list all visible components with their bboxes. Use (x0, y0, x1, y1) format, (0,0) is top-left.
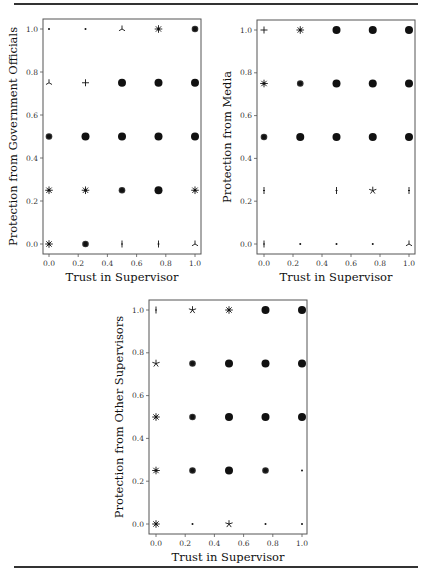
x-axis-label: Trust in Supervisor (172, 550, 285, 564)
circle-marker (225, 413, 233, 421)
asterisk-marker (45, 186, 53, 194)
circle-marker (262, 306, 270, 314)
y-axis-label: Protection from Media (220, 71, 234, 203)
y-tick-label: 0.4 (240, 154, 252, 163)
x-tick-label: 0.8 (160, 259, 172, 268)
plus-marker (261, 27, 268, 34)
asterisk-marker (260, 80, 268, 88)
asterisk-marker (152, 413, 160, 421)
y-tick-label: 0.8 (26, 68, 38, 77)
circle-marker (155, 79, 163, 87)
scatter-plot-other-supervisors: 0.00.20.40.60.81.00.00.20.40.60.81.0Trus… (112, 300, 308, 564)
x-tick-label: 0.4 (101, 259, 113, 268)
circle-marker (155, 133, 163, 141)
x-tick-label: 0.0 (150, 539, 162, 548)
asterisk-marker (191, 186, 199, 194)
circle-sm-marker (46, 133, 53, 140)
dot-marker (85, 28, 87, 30)
circle-marker (298, 306, 306, 314)
x-tick-label: 0.8 (267, 539, 279, 548)
circle-sm-marker (189, 360, 196, 367)
y-tick-label: 0.2 (240, 197, 252, 206)
y-tick-label: 0.2 (132, 477, 144, 486)
star-marker (152, 360, 159, 367)
dot-marker (265, 523, 267, 525)
y-tick-label: 0.6 (240, 111, 252, 120)
circle-marker (191, 133, 199, 141)
circle-marker (369, 133, 377, 141)
tri-marker (119, 26, 125, 31)
x-tick-label: 0.0 (43, 259, 55, 268)
x-axis-label: Trust in Supervisor (280, 270, 393, 284)
circle-marker (405, 80, 413, 88)
circle-marker (369, 26, 377, 34)
figure-canvas: 0.00.20.40.60.81.00.00.20.40.60.81.0Trus… (0, 0, 428, 573)
asterisk-marker (155, 25, 163, 33)
vline-marker (263, 187, 265, 194)
vline-marker (263, 241, 265, 248)
dot-marker (336, 243, 338, 245)
asterisk-marker (152, 520, 160, 528)
circle-marker (369, 80, 377, 88)
x-tick-label: 1.0 (189, 259, 201, 268)
x-tick-label: 0.0 (258, 259, 270, 268)
x-tick-label: 0.6 (345, 259, 357, 268)
circle-marker (262, 413, 270, 421)
x-tick-label: 0.8 (374, 259, 386, 268)
dot-marker (299, 243, 301, 245)
circle-marker (333, 26, 341, 34)
scatter-plot-government-officials: 0.00.20.40.60.81.00.00.20.40.60.81.0Trus… (6, 19, 201, 284)
circle-marker (82, 133, 90, 141)
circle-sm-marker (189, 414, 196, 421)
circle-sm-marker (192, 26, 199, 33)
x-tick-label: 0.2 (287, 259, 299, 268)
x-tick-label: 0.4 (316, 259, 328, 268)
circle-marker (118, 133, 126, 141)
plus-marker (82, 79, 89, 86)
x-tick-label: 0.2 (72, 259, 84, 268)
circle-sm-marker (262, 467, 269, 474)
circle-marker (118, 79, 126, 87)
dot-marker (301, 470, 303, 472)
x-tick-label: 0.6 (131, 259, 143, 268)
circle-marker (333, 80, 341, 88)
circle-marker (333, 133, 341, 141)
y-tick-label: 0.2 (26, 197, 38, 206)
asterisk-marker (82, 186, 90, 194)
tri-marker (46, 79, 52, 84)
circle-marker (191, 79, 199, 87)
x-axis-label: Trust in Supervisor (66, 270, 179, 284)
asterisk-marker (152, 467, 160, 475)
asterisk-marker (45, 240, 53, 248)
circle-marker (262, 360, 270, 368)
vline-marker (336, 187, 338, 194)
y-tick-label: 0.0 (240, 240, 252, 249)
x-tick-label: 0.4 (208, 539, 220, 548)
tri-marker (192, 241, 198, 246)
circle-sm-marker (189, 467, 196, 474)
asterisk-marker (225, 306, 233, 314)
x-tick-label: 0.6 (238, 539, 250, 548)
y-tick-label: 0.6 (26, 111, 38, 120)
scatter-plot-media: 0.00.20.40.60.81.00.00.20.40.60.81.0Trus… (220, 20, 415, 284)
vline-marker (155, 307, 157, 314)
circle-marker (405, 133, 413, 141)
y-tick-label: 0.8 (132, 348, 144, 357)
x-tick-label: 1.0 (403, 259, 415, 268)
circle-sm-marker (82, 241, 89, 248)
y-tick-label: 0.0 (26, 240, 38, 249)
dot-marker (301, 523, 303, 525)
dot-marker (192, 523, 194, 525)
y-tick-label: 0.0 (132, 520, 144, 529)
asterisk-marker (296, 26, 304, 34)
dot-marker (372, 243, 374, 245)
circle-marker (225, 467, 233, 475)
circle-marker (225, 360, 233, 368)
star-marker (369, 187, 376, 194)
vline-marker (408, 187, 410, 194)
circle-sm-marker (297, 80, 304, 87)
y-tick-label: 0.4 (132, 434, 144, 443)
circle-sm-marker (119, 187, 126, 194)
circle-marker (298, 360, 306, 368)
circle-sm-marker (261, 134, 268, 141)
